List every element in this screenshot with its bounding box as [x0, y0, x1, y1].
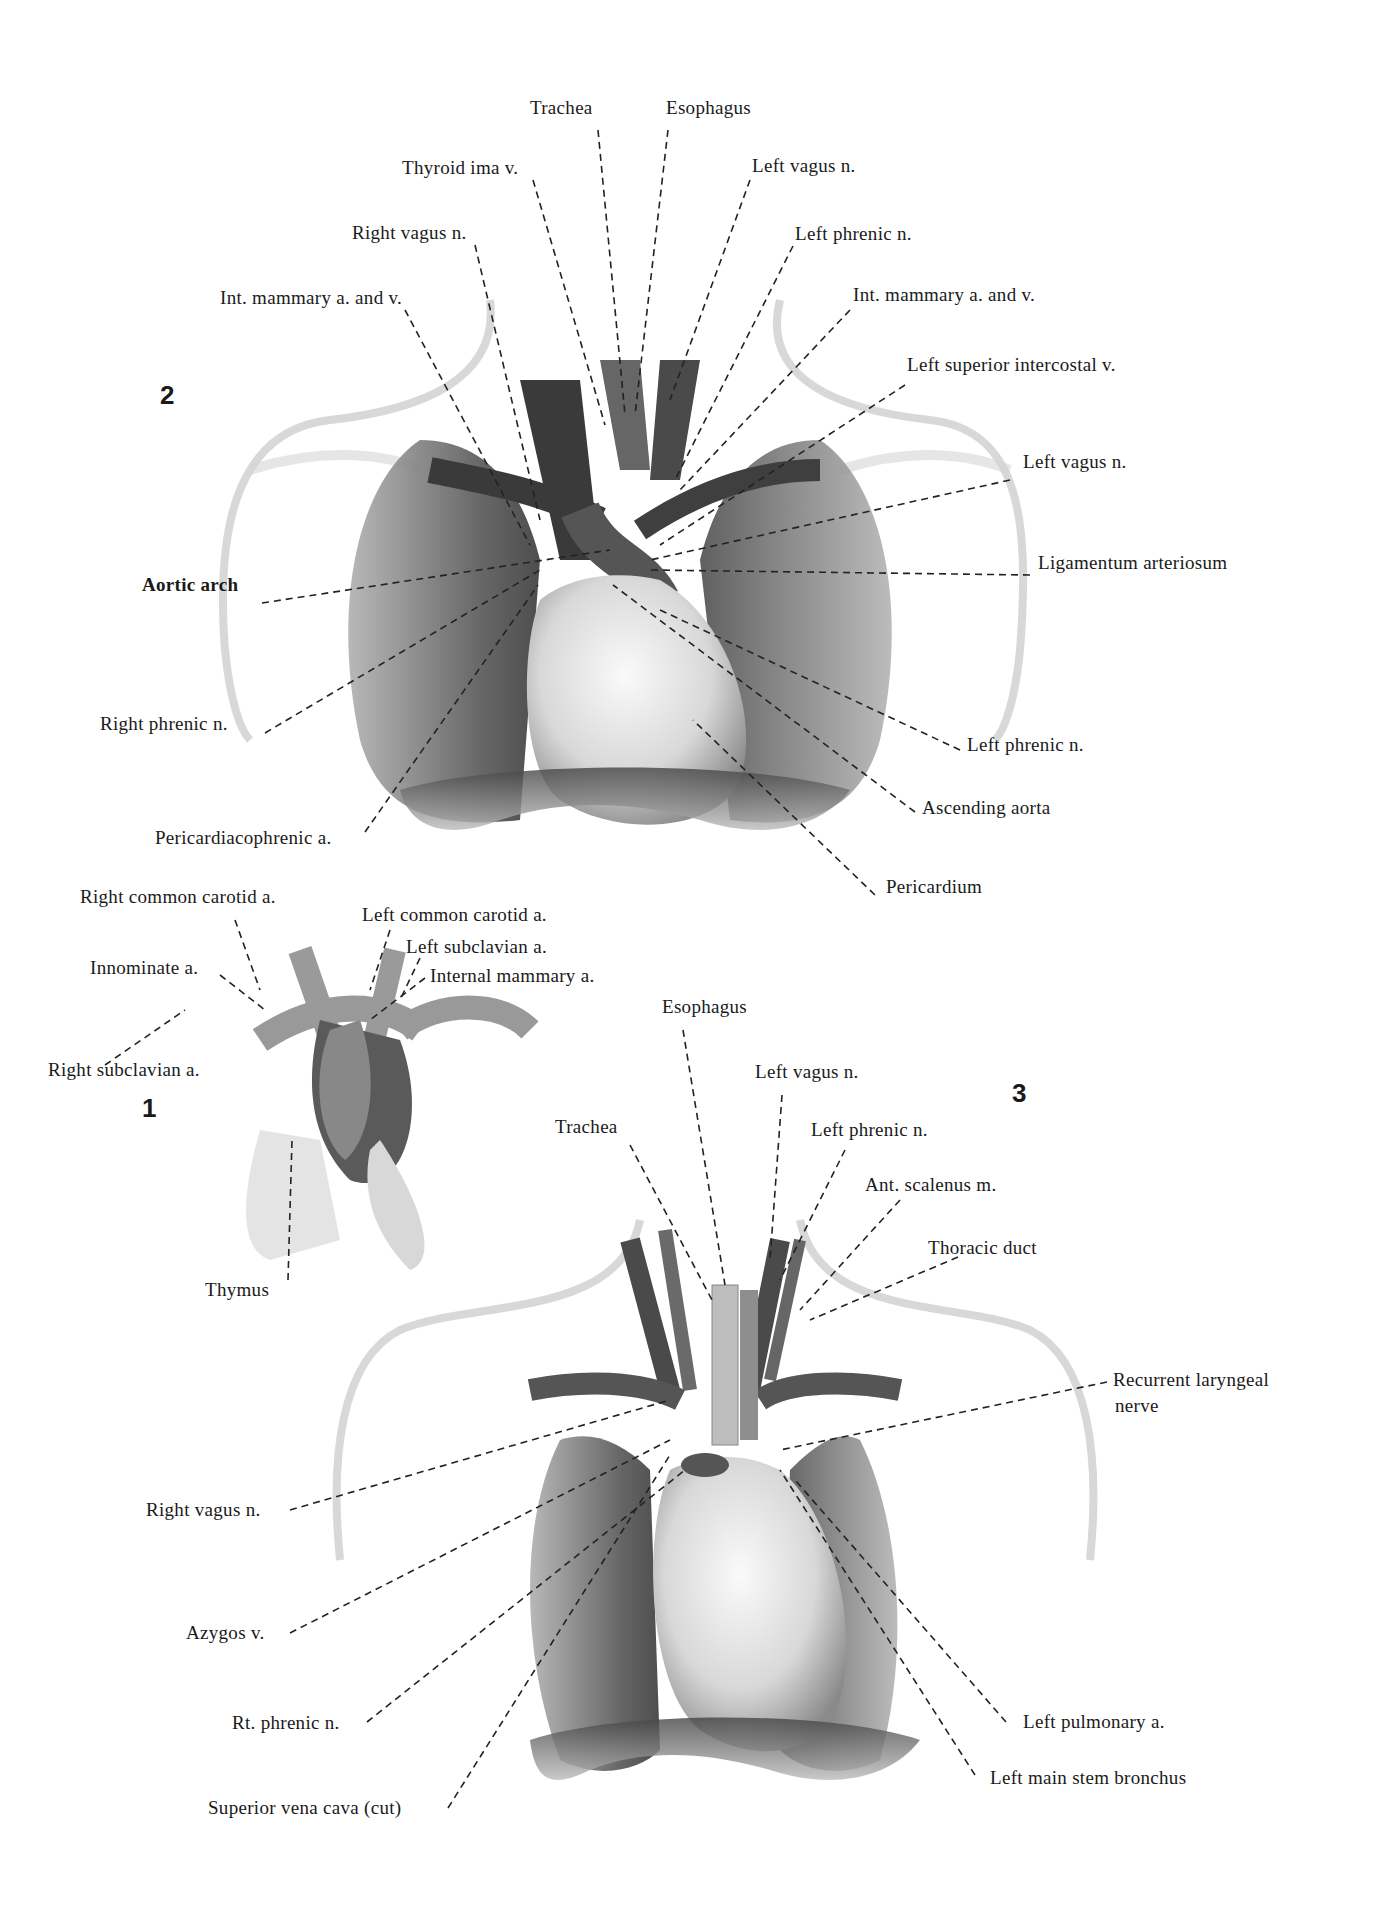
figure-3-artwork [337, 1220, 1094, 1780]
label-pericardiacophrenic-a: Pericardiacophrenic a. [155, 828, 331, 847]
label-internal-mammary: Internal mammary a. [430, 966, 595, 985]
label-trachea-3: Trachea [555, 1117, 618, 1136]
label-int-mammary-right: Int. mammary a. and v. [220, 288, 402, 307]
label-left-vagus-mid: Left vagus n. [1023, 452, 1127, 471]
label-rt-phrenic: Rt. phrenic n. [232, 1713, 340, 1732]
figure-number-1: 1 [142, 1095, 156, 1121]
label-thoracic-duct: Thoracic duct [928, 1238, 1037, 1257]
label-right-phrenic: Right phrenic n. [100, 714, 228, 733]
figure-2-artwork [223, 300, 1023, 830]
label-int-mammary-left: Int. mammary a. and v. [853, 285, 1035, 304]
label-left-phrenic-3: Left phrenic n. [811, 1120, 928, 1139]
label-pericardium: Pericardium [886, 877, 982, 896]
label-right-common-carotid: Right common carotid a. [80, 887, 276, 906]
label-left-subclavian: Left subclavian a. [406, 937, 547, 956]
label-thyroid-ima-v: Thyroid ima v. [402, 158, 518, 177]
label-ligamentum-arteriosum: Ligamentum arteriosum [1038, 553, 1227, 572]
label-right-vagus-3: Right vagus n. [146, 1500, 261, 1519]
label-trachea: Trachea [530, 98, 593, 117]
label-ant-scalenus: Ant. scalenus m. [865, 1175, 996, 1194]
label-recurrent-laryngeal-nerve: nerve [1115, 1396, 1159, 1415]
label-left-main-stem-bronchus: Left main stem bronchus [990, 1768, 1186, 1787]
label-right-subclavian: Right subclavian a. [48, 1060, 200, 1079]
label-esophagus: Esophagus [666, 98, 751, 117]
label-left-pulmonary-a: Left pulmonary a. [1023, 1712, 1165, 1731]
label-esophagus-3: Esophagus [662, 997, 747, 1016]
label-left-common-carotid: Left common carotid a. [362, 905, 547, 924]
label-left-phrenic-low: Left phrenic n. [967, 735, 1084, 754]
label-innominate: Innominate a. [90, 958, 198, 977]
label-azygos-v: Azygos v. [186, 1623, 265, 1642]
label-left-vagus-top: Left vagus n. [752, 156, 856, 175]
label-recurrent-laryngeal: Recurrent laryngeal [1113, 1370, 1269, 1389]
label-left-vagus-3: Left vagus n. [755, 1062, 859, 1081]
figure-number-3: 3 [1012, 1080, 1026, 1106]
figure-number-2: 2 [160, 382, 174, 408]
label-superior-vena-cava: Superior vena cava (cut) [208, 1798, 401, 1817]
label-right-vagus: Right vagus n. [352, 223, 467, 242]
label-thymus: Thymus [205, 1280, 269, 1299]
label-left-phrenic-top: Left phrenic n. [795, 224, 912, 243]
label-left-superior-intercostal-v: Left superior intercostal v. [907, 355, 1116, 374]
label-aortic-arch: Aortic arch [142, 575, 238, 594]
label-ascending-aorta: Ascending aorta [922, 798, 1050, 817]
